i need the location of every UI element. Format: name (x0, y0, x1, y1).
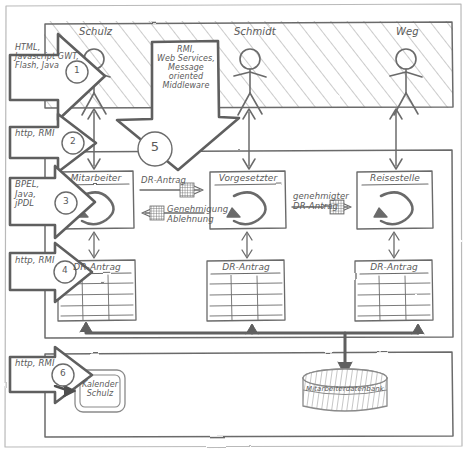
badge-number-4: 4 (55, 265, 75, 275)
process-label-reisestelle: Reisestelle (357, 173, 433, 183)
link-actor-process-3 (390, 109, 402, 169)
annotation-text-3: BPEL, Java, jPDL (15, 180, 39, 209)
process-label-mitarbeiter: Mitarbeiter (58, 173, 134, 183)
entity-label-3: DR-Antrag (355, 262, 433, 272)
badge-number-2: 2 (63, 136, 83, 146)
actor-name-schmidt: Schmidt (234, 26, 276, 37)
entity-label-2: DR-Antrag (207, 262, 285, 272)
message-label-genehmigter-dr-antrag: genehmigter DR-Antrag (293, 192, 349, 211)
link-actor-process-2 (243, 109, 255, 169)
annotation-text-6: http, RMI (15, 359, 55, 369)
process-label-vorgesetzter: Vorgesetzter (210, 173, 286, 183)
mesh-icon (150, 206, 164, 220)
message-label-dr-antrag: DR-Antrag (141, 176, 186, 186)
message-label-genehmigung-ablehnung: Genehmigung Ablehnung (167, 205, 228, 224)
badge-number-5: 5 (143, 140, 167, 155)
data-bus-connector (80, 322, 424, 376)
annotation-text-5: RMI, Web Services, Message oriented Midd… (151, 46, 221, 91)
link-process-entity-2 (242, 232, 252, 258)
actor-name-schulz: Schulz (79, 26, 112, 37)
link-process-entity-1 (89, 232, 99, 258)
diagram-canvas: Schulz Schmidt Weg Mitarbeiter Vorgesetz… (0, 0, 467, 451)
badge-number-6: 6 (53, 368, 73, 378)
badge-number-1: 1 (67, 65, 87, 75)
calendar-label: Kalender Schulz (80, 381, 120, 399)
badge-number-3: 3 (56, 196, 76, 206)
database-label: Mitarbeiterdatenbank (303, 386, 387, 394)
annotation-text-2: http, RMI (15, 129, 55, 139)
annotation-text-4: http, RMI (15, 256, 55, 266)
actor-name-weg: Weg (396, 26, 419, 37)
link-process-entity-3 (389, 232, 399, 258)
